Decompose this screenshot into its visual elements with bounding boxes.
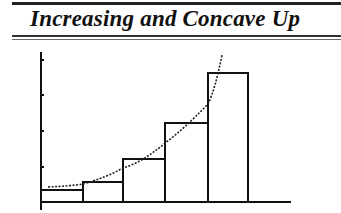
concave-up-curve (48, 55, 222, 187)
rectangle-2 (83, 182, 123, 202)
riemann-sum-diagram (0, 0, 341, 213)
rectangle-5 (208, 73, 248, 202)
rectangle-1 (41, 190, 83, 202)
rectangles (41, 73, 248, 202)
rectangle-4 (165, 123, 208, 202)
